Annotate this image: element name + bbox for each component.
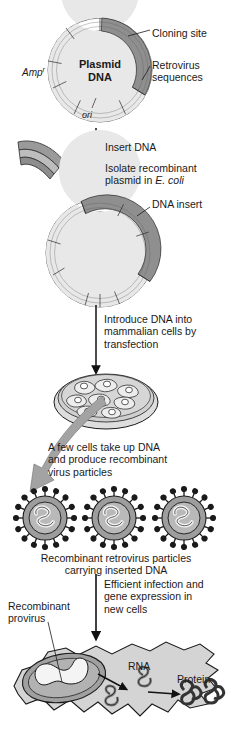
virus-particle [14, 487, 77, 550]
label-recombinant-provirus-line1: Recombinant [8, 600, 70, 612]
cell-culture-dish-graphic [54, 374, 158, 429]
label-recombinant-particles: Recombinant retrovirus particlescarrying… [0, 552, 232, 577]
label-recombinant-particles-line1: Recombinant retrovirus particles [41, 552, 192, 564]
label-introduce-line2: mammalian cells by [104, 325, 196, 337]
label-ori: ori [82, 110, 92, 121]
dna-fragment-graphic [18, 141, 64, 179]
label-cloning-site: Cloning site [152, 27, 207, 39]
label-protein: Protein [177, 673, 210, 685]
label-amp-text: Amp [22, 67, 43, 78]
label-plasmid-line1: Plasmid [79, 58, 121, 70]
label-introduce-dna: Introduce DNA intomammalian cells bytran… [104, 313, 196, 350]
label-introduce-line3: transfection [104, 338, 158, 350]
diagram-graphics [0, 0, 232, 735]
label-recombinant-provirus: Recombinantprovirus [8, 600, 70, 625]
label-introduce-line1: Introduce DNA into [104, 313, 192, 325]
label-few-cells: A few cells take up DNAand produce recom… [48, 441, 167, 478]
label-dna-insert: DNA insert [152, 198, 202, 210]
label-retrovirus-line1: Retrovirus [152, 59, 200, 71]
label-amp-resistance: Ampr [22, 66, 45, 79]
recombinant-plasmid-graphic [46, 130, 161, 307]
label-isolate-recombinant: Isolate recombinantplasmid in E. coli [105, 162, 197, 187]
label-efficient-infection: Efficient infection andgene expression i… [104, 578, 204, 615]
label-few-cells-line2: and produce recombinant [48, 453, 167, 465]
virus-particles-graphic [14, 487, 216, 550]
infected-cell-graphic [14, 622, 224, 716]
diagram-figure: Cloning site Retrovirussequences Ampr Pl… [0, 0, 232, 735]
label-retrovirus-line2: sequences [152, 71, 203, 83]
label-insert-dna: Insert DNA [105, 141, 156, 153]
label-recombinant-provirus-line2: provirus [8, 612, 45, 624]
virus-particle [153, 487, 216, 550]
virus-particle [83, 487, 146, 550]
label-efficient-line1: Efficient infection and [104, 578, 204, 590]
label-few-cells-line1: A few cells take up DNA [48, 441, 160, 453]
label-amp-superscript: r [43, 66, 45, 73]
label-few-cells-line3: virus particles [48, 466, 112, 478]
label-plasmid-line2: DNA [88, 71, 112, 83]
label-ecoli: E. coli [155, 174, 184, 186]
label-efficient-line3: new cells [104, 603, 147, 615]
label-isolate-line2-pre: plasmid in [105, 174, 155, 186]
label-efficient-line2: gene expression in [104, 590, 192, 602]
label-rna: RNA [128, 660, 150, 672]
label-retrovirus-sequences: Retrovirussequences [152, 59, 203, 84]
label-isolate-line1: Isolate recombinant [105, 162, 197, 174]
label-plasmid-dna: PlasmidDNA [68, 58, 132, 84]
label-recombinant-particles-line2: carrying inserted DNA [65, 564, 168, 576]
